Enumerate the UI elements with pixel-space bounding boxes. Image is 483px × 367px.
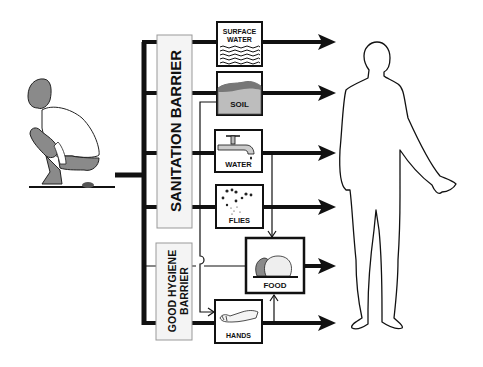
squatting-person-icon	[28, 79, 115, 188]
hands-label: HANDS	[226, 332, 251, 339]
sanitation-barrier-label: SANITATION BARRIER	[167, 50, 184, 212]
flies-label: FLIES	[229, 216, 250, 225]
hands-box: HANDS	[215, 300, 262, 343]
soil-label: SOIL	[230, 100, 249, 109]
hygiene-barrier: GOOD HYGIENE BARRIER	[156, 243, 192, 340]
food-label: FOOD	[263, 281, 286, 290]
arrowheads	[318, 34, 336, 331]
f-diagram: SANITATION BARRIER GOOD HYGIENE BARRIER …	[0, 0, 483, 367]
sanitation-barrier: SANITATION BARRIER	[157, 35, 192, 228]
surface-water-label-2: WATER	[227, 36, 252, 43]
water-box: WATER	[215, 130, 262, 172]
food-box: FOOD	[246, 238, 304, 293]
flies-box: FLIES	[216, 185, 263, 228]
hygiene-barrier-label-1: GOOD HYGIENE	[166, 250, 178, 332]
surface-water-box: SURFACE WATER	[217, 22, 262, 66]
soil-box: SOIL	[217, 72, 262, 115]
human-figure-icon	[340, 42, 456, 329]
surface-water-label-1: SURFACE	[223, 28, 257, 35]
hygiene-barrier-label-2: BARRIER	[178, 267, 190, 315]
water-label: WATER	[225, 160, 252, 169]
